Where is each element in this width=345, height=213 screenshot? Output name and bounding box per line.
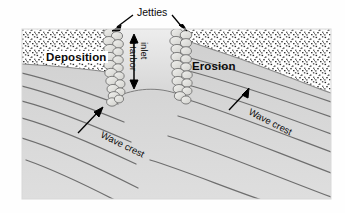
diagram-canvas: Jetties Deposition Erosion Harbor inlet … [0,0,345,213]
label-inlet: inlet [139,42,150,59]
label-deposition: Deposition [44,51,108,63]
label-jetties: Jetties [137,6,167,18]
coastal-jetty-diagram [0,0,345,213]
label-erosion: Erosion [192,60,236,72]
label-harbor: Harbor [128,42,139,71]
